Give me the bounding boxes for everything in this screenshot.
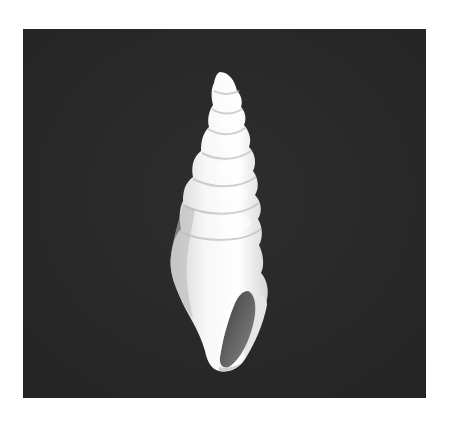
shell-illustration: [23, 29, 426, 398]
page: [0, 0, 453, 421]
specimen-photo: [23, 29, 426, 398]
